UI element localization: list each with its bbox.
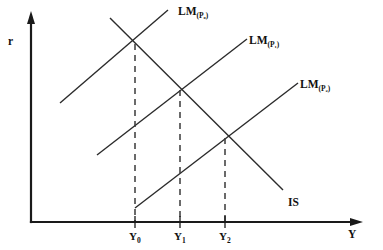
tick-label-y1-sub: 1 (182, 236, 186, 245)
tick-label-y0-sub: 0 (137, 236, 141, 245)
y-axis-label: r (8, 36, 13, 48)
curve-lm-p1 (97, 39, 247, 155)
tick-label-y0-text: Y (129, 230, 137, 242)
curve-label-lm-p1-sub: (P₁) (268, 40, 280, 49)
tick-label-y0: Y0 (129, 231, 141, 242)
diagram-canvas (0, 0, 383, 250)
curve-label-is: IS (288, 197, 299, 209)
curve-lm-p2 (135, 83, 298, 208)
curve-label-lm-p2-text: LM (300, 78, 319, 90)
y-axis-arrowhead (27, 11, 35, 24)
curve-label-lm-p0-sub: (P₀) (197, 11, 209, 20)
curve-label-lm-p0: LM(P₀) (178, 6, 208, 18)
tick-label-y2: Y2 (219, 231, 231, 242)
tick-label-y2-sub: 2 (227, 236, 231, 245)
curve-label-lm-p1: LM(P₁) (249, 35, 279, 47)
curve-label-lm-p2: LM(P₂) (300, 79, 330, 91)
curve-label-lm-p0-text: LM (178, 5, 197, 17)
curve-label-lm-p2-sub: (P₂) (319, 84, 331, 93)
tick-label-y1-text: Y (174, 230, 182, 242)
tick-label-y1: Y1 (174, 231, 186, 242)
is-lm-diagram: r Y LM(P₀) LM(P₁) LM(P₂) IS Y0 Y1 Y2 (0, 0, 383, 250)
x-axis-arrowhead (350, 218, 363, 226)
tick-label-y2-text: Y (219, 230, 227, 242)
curve-label-is-text: IS (288, 196, 299, 208)
x-axis-label: Y (348, 229, 356, 241)
curve-lm-p0 (60, 10, 168, 103)
curve-label-lm-p1-text: LM (249, 34, 268, 46)
